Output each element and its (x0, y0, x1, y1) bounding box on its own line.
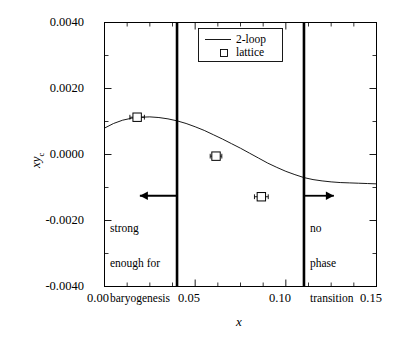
x-tick-label-3: 0.15 (360, 291, 382, 306)
x-tick-label-0: 0.00 (87, 291, 109, 306)
annotation-left-line3: baryogenesis (110, 293, 170, 305)
annotation-right-line3: transition (310, 293, 353, 305)
annotation-left: strong enough for baryogenesis (110, 200, 170, 328)
figure-container: 0.0040 0.0020 0.0000 -0.0020 -0.0040 0.0… (0, 0, 395, 341)
y-tick-label-1: 0.0020 (50, 81, 84, 96)
legend-label-lattice: lattice (236, 46, 264, 58)
y-tick-label-0: 0.0040 (50, 15, 84, 30)
annotation-left-line1: strong (110, 223, 170, 235)
annotation-right-line1: no (310, 223, 353, 235)
threshold-lines (177, 23, 304, 287)
annotation-left-line2: enough for (110, 258, 170, 270)
y-axis-title-main: xy (28, 156, 43, 168)
annotation-right: no phase transition (310, 200, 353, 328)
legend-label-2-loop: 2-loop (236, 33, 266, 45)
y-tick-label-4: -0.0040 (45, 279, 84, 294)
x-axis-title: x (236, 314, 242, 330)
annotation-right-line2: phase (310, 258, 353, 270)
y-axis-title-subscript: c (36, 153, 46, 157)
y-tick-label-2: 0.0000 (50, 147, 84, 162)
y-axis-title: xyc (28, 153, 46, 168)
lattice-data-points (130, 113, 268, 201)
x-tick-label-2: 0.10 (269, 291, 291, 306)
x-tick-label-1: 0.05 (178, 291, 200, 306)
curve-2-loop (105, 117, 377, 184)
y-tick-label-3: -0.0020 (45, 213, 84, 228)
